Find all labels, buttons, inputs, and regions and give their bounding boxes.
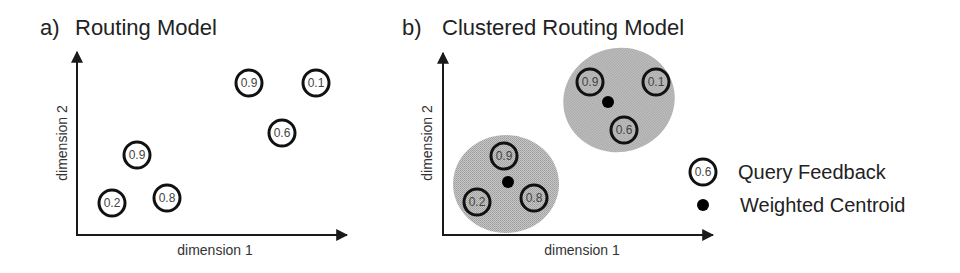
legend-centroid-label: Weighted Centroid	[740, 194, 905, 216]
feedback-value: 0.6	[274, 126, 291, 140]
panel-a: a) Routing Model dimension 1 dimension 2…	[40, 15, 347, 258]
feedback-value: 0.1	[308, 76, 325, 90]
cluster-upper: 0.90.10.6	[551, 35, 686, 164]
query-feedback-point: 0.1	[303, 70, 329, 96]
feedback-value: 0.9	[582, 75, 599, 89]
panel-a-letter: a)	[40, 15, 60, 40]
query-feedback-point: 0.2	[99, 190, 125, 216]
panel-a-feedback-points: 0.90.10.60.90.20.8	[99, 70, 329, 216]
weighted-centroid-dot-icon	[697, 199, 709, 211]
panel-b-clusters: 0.90.10.60.90.20.8	[453, 35, 687, 233]
weighted-centroid-dot	[502, 176, 514, 188]
legend-feedback-sample-value: 0.6	[695, 165, 712, 179]
feedback-value: 0.9	[241, 76, 258, 90]
feedback-value: 0.2	[104, 196, 121, 210]
legend-feedback-label: Query Feedback	[738, 161, 887, 183]
query-feedback-point: 0.9	[124, 142, 150, 168]
panel-a-title: Routing Model	[75, 15, 217, 40]
feedback-value: 0.2	[469, 195, 486, 209]
query-feedback-point: 0.9	[236, 70, 262, 96]
panel-a-x-axis-label: dimension 1	[177, 242, 253, 258]
feedback-value: 0.6	[616, 123, 633, 137]
panel-b-title: Clustered Routing Model	[442, 15, 684, 40]
routing-model-diagram: a) Routing Model dimension 1 dimension 2…	[0, 0, 960, 273]
feedback-value: 0.9	[496, 149, 513, 163]
panel-b: b) Clustered Routing Model 0.90.10.60.90…	[402, 15, 713, 258]
panel-a-y-axis-label: dimension 2	[54, 105, 70, 181]
cluster-lower: 0.90.20.8	[453, 135, 559, 233]
query-feedback-point: 0.8	[154, 185, 180, 211]
feedback-value: 0.8	[159, 191, 176, 205]
legend: 0.6 Query Feedback Weighted Centroid	[690, 159, 905, 216]
legend-item-query-feedback: 0.6 Query Feedback	[690, 159, 887, 185]
legend-item-weighted-centroid: Weighted Centroid	[697, 194, 905, 216]
cluster-region	[551, 35, 686, 164]
panel-b-letter: b)	[402, 15, 422, 40]
panel-b-x-axis-label: dimension 1	[544, 242, 620, 258]
feedback-value: 0.8	[526, 191, 543, 205]
query-feedback-point: 0.6	[269, 120, 295, 146]
weighted-centroid-dot	[602, 96, 614, 108]
feedback-value: 0.1	[648, 75, 665, 89]
panel-b-y-axis-label: dimension 2	[419, 105, 435, 181]
feedback-value: 0.9	[129, 148, 146, 162]
